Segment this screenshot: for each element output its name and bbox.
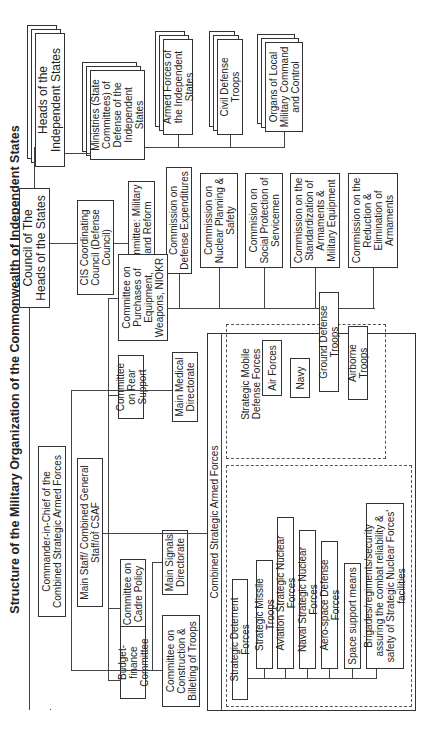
connector: [108, 377, 109, 681]
chart-title: Structure of the Military Organization o…: [8, 0, 22, 739]
space-support-box: Space support means: [344, 563, 361, 669]
committee-rear-support-box: Committee on Rear Support: [118, 355, 144, 419]
commission-reduction: Commission on the Reduction & Eliminatio…: [348, 173, 398, 268]
council-of-heads-box: Council of The Heads of the States: [19, 188, 50, 308]
strategic-missile-troops-box: Strategic Missile Troops: [256, 560, 273, 669]
committee-construction-box: Committee on Construction & Billeting of…: [162, 615, 200, 707]
connector: [145, 147, 285, 148]
heads-of-states-box: Heads of the Independent States: [35, 33, 65, 167]
cis-coordinating-council-box: CIS Coordinating Council (Defense Counci…: [77, 200, 114, 295]
ground-defense-troops-box: Ground Defense Troops: [319, 292, 339, 392]
naval-nuclear-forces-box: Naval Strategic Nuclear Forces: [299, 530, 316, 669]
org-chart: Structure of the Military Organization o…: [0, 0, 425, 739]
committee-cadre-policy-box: Committee on Cadre Policy: [120, 559, 146, 629]
navy-box: Navy: [290, 358, 310, 398]
commission-defense-expenditures: Commission on Defense Expenditures: [166, 167, 192, 274]
organs-local-command-box: Organs of Local Military Command and Con…: [265, 42, 303, 132]
connector: [50, 243, 77, 244]
connector: [248, 678, 376, 679]
ministries-box: Ministries (State Committees) of Defense…: [90, 70, 145, 160]
csaf-divider: [221, 333, 222, 711]
mobile-forces-label: Strategic Mobile Defense Forces: [240, 329, 262, 439]
brigades-security-box: Brigades/regiments/security assuring the…: [366, 503, 404, 669]
committee-purchases-box: Committee on Purchases of Equipment, Wea…: [118, 254, 168, 341]
commission-nuclear-planning: Commission on Nuclear Planning & Safety: [200, 173, 238, 268]
connector: [65, 153, 90, 154]
main-medical-directorate-box: Main Medical Directorate: [172, 352, 198, 422]
strategic-deterrent-forces-box: Strategic Deterrent Forces: [232, 579, 248, 700]
aviation-nuclear-forces-box: Aviation Strategic Nuclear Forces: [277, 517, 294, 669]
connector: [103, 533, 207, 534]
csaf-label: Combined Strategic Armed Forces: [209, 333, 220, 711]
aero-space-defense-box: Aero-space Defense Forces: [321, 541, 338, 669]
armed-forces-box: Armed Forces of the Independent States: [163, 39, 193, 135]
commander-in-chief-box: Commander-in-Chief of the Combined Strat…: [38, 446, 66, 617]
main-signals-directorate-box: Main Signals Directorate: [162, 530, 188, 595]
connector: [114, 243, 128, 244]
airborne-troops-box: Airborne Troops: [348, 326, 368, 400]
connector: [71, 391, 72, 671]
civil-defense-box: Civil Defense Troops: [217, 39, 243, 135]
air-forces-box: Air Forces: [262, 340, 282, 396]
budget-finance-committee-box: Budget-finance Committee: [120, 626, 146, 699]
connector: [34, 148, 35, 188]
commission-standardization: Commission on the Standardization of Arm…: [290, 173, 340, 268]
commission-social-protection: Commision on Social Protection of Servic…: [245, 173, 283, 268]
connector: [29, 308, 30, 710]
